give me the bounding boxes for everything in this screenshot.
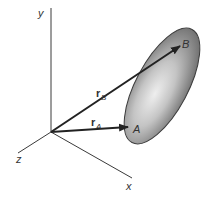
x-axis-label: x — [125, 180, 132, 192]
point-B-label: B — [182, 38, 189, 50]
diagram-canvas: y z x r B r A A B — [0, 0, 214, 203]
rA-subscript: A — [95, 122, 101, 131]
x-axis — [51, 132, 132, 178]
point-A-label: A — [132, 123, 140, 135]
z-axis-label: z — [15, 153, 22, 165]
vector-rA — [51, 127, 128, 132]
y-axis-label: y — [37, 7, 45, 19]
rB-subscript: B — [101, 93, 107, 102]
position-vectors-diagram: y z x r B r A A B — [0, 0, 214, 203]
rigid-body — [109, 17, 214, 154]
z-axis — [18, 132, 51, 153]
